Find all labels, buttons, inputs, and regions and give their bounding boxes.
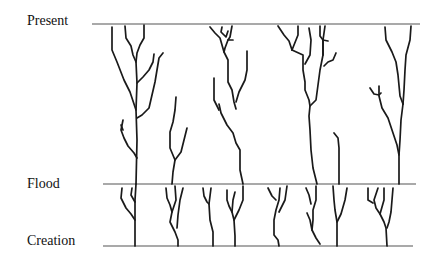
lineage-branch <box>334 133 339 184</box>
lineage-branch <box>137 54 154 83</box>
lineage-branch <box>333 186 337 222</box>
lineage-branch <box>121 188 135 220</box>
lineage-branch <box>236 51 247 102</box>
lineage-branch <box>278 26 292 50</box>
lineage-branch <box>274 188 280 246</box>
lineage-branch <box>136 25 144 184</box>
lineage-branch <box>309 40 323 184</box>
lineage-branch <box>170 186 178 246</box>
lineage-branch <box>403 26 411 104</box>
lineage-branch <box>234 186 243 220</box>
lineage-branch <box>203 188 209 204</box>
lineage-branch <box>166 188 172 212</box>
lineage-branch <box>112 27 136 110</box>
lineage-branch <box>292 26 298 50</box>
lineage-branch <box>232 192 235 212</box>
lineage-branch <box>219 104 243 184</box>
lineage-branch <box>214 78 219 110</box>
lineage-diagram <box>0 0 439 257</box>
lineage-branch <box>385 27 403 104</box>
lineage-branch <box>177 188 183 228</box>
lineage-branches <box>112 25 411 246</box>
lineage-branch <box>380 188 387 246</box>
creation-label: Creation <box>27 234 75 248</box>
lineage-branch <box>374 188 380 214</box>
lineage-branch <box>387 188 393 228</box>
lineage-branch <box>221 27 228 37</box>
lineage-branch <box>368 188 373 203</box>
lineage-branch <box>121 120 137 158</box>
lineage-branch <box>337 188 347 246</box>
lineage-branch <box>306 188 311 204</box>
lineage-branch <box>305 28 311 64</box>
lineage-branch <box>224 40 236 109</box>
lineage-branch <box>170 97 176 160</box>
present-label: Present <box>27 14 68 28</box>
lineage-branch <box>379 86 399 155</box>
timelines <box>92 24 420 246</box>
lineage-branch <box>268 188 276 200</box>
lineage-branch <box>312 186 316 230</box>
lineage-branch <box>209 188 213 246</box>
lineage-branch <box>137 53 163 118</box>
flood-label: Flood <box>27 177 60 191</box>
lineage-branch <box>135 184 136 246</box>
lineage-branch <box>228 26 233 40</box>
lineage-branch <box>324 53 336 66</box>
lineage-branch <box>399 104 403 184</box>
lineage-branch <box>125 26 136 62</box>
